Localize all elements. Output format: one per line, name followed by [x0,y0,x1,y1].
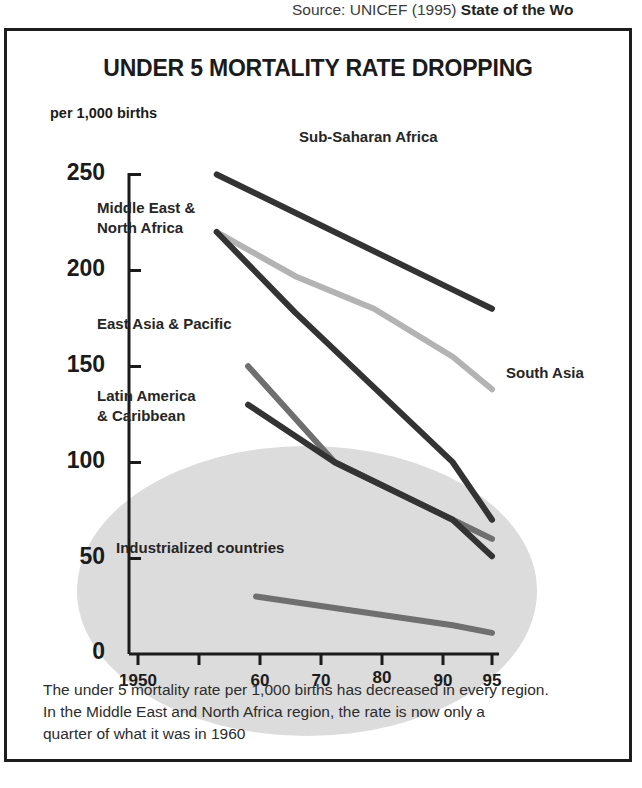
y-tick-label-100: 100 [35,447,105,474]
source-line: Source: UNICEF (1995) State of the Wo [0,0,642,24]
caption-line-1: The under 5 mortality rate per 1,000 bir… [43,679,563,701]
caption-line-2: In the Middle East and North Africa regi… [43,701,563,723]
chart-caption: The under 5 mortality rate per 1,000 bir… [43,679,563,745]
y-tick-label-50: 50 [35,543,105,570]
series-label-east-asia-pacific: East Asia & Pacific [97,315,232,334]
series-line-sub-saharan-africa [217,175,492,309]
series-label-south-asia: South Asia [506,364,584,383]
source-lead: Source: UNICEF (1995) [292,1,461,18]
series-label-latin-america-caribbean-line2: & Caribbean [97,407,185,426]
series-label-latin-america-caribbean-line1: Latin America [97,387,196,406]
series-label-industrialized-countries: Industrialized countries [116,539,284,558]
source-publication-title: State of the Wo [461,1,574,18]
series-label-middle-east-north-africa-line1: Middle East & [97,199,195,218]
chart-panel: UNDER 5 MORTALITY RATE DROPPING per 1,00… [4,28,632,762]
y-tick-label-0: 0 [35,638,105,665]
caption-line-3: quarter of what it was in 1960 [43,723,563,745]
source-line-inner: Source: UNICEF (1995) State of the Wo [292,1,573,19]
series-label-sub-saharan-africa: Sub-Saharan Africa [299,128,438,147]
series-label-middle-east-north-africa-line2: North Africa [97,219,183,238]
y-tick-label-200: 200 [35,255,105,282]
y-tick-label-150: 150 [35,351,105,378]
y-tick-label-250: 250 [35,159,105,186]
